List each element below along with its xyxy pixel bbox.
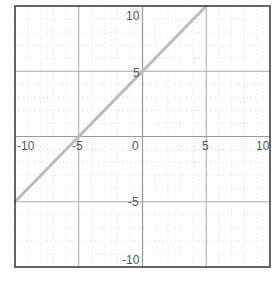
x-tick-label-neg5: -5 bbox=[72, 139, 83, 153]
x-tick-label-0: 0 bbox=[132, 139, 139, 153]
x-tick-label-10: 10 bbox=[256, 139, 270, 153]
y-tick-label-neg5: -5 bbox=[128, 195, 139, 209]
y-tick-label-5: 5 bbox=[133, 66, 140, 80]
y-tick-label-neg10: -10 bbox=[122, 253, 140, 267]
x-tick-label-5: 5 bbox=[202, 139, 209, 153]
y-tick-label-10: 10 bbox=[126, 9, 140, 23]
background bbox=[0, 0, 279, 282]
graph-canvas: -10 -5 0 5 10 10 5 -5 -10 bbox=[0, 0, 279, 282]
x-tick-label-neg10: -10 bbox=[17, 139, 35, 153]
